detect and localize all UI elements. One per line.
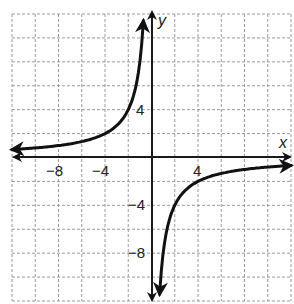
- curve-right-branch: [160, 166, 291, 295]
- y-axis-label: y: [157, 12, 167, 29]
- x-tick-neg4: −4: [92, 162, 109, 179]
- y-tick-neg4: −4: [128, 196, 145, 213]
- x-axis-label: x: [278, 134, 288, 151]
- curve-left-branch: [12, 21, 143, 150]
- y-tick-pos4: 4: [136, 101, 144, 118]
- graph-plot: y x −8 −4 4 4 −4 −8: [0, 0, 294, 304]
- x-tick-pos4: 4: [193, 162, 201, 179]
- y-tick-neg8: −8: [128, 244, 145, 261]
- x-tick-neg8: −8: [46, 162, 63, 179]
